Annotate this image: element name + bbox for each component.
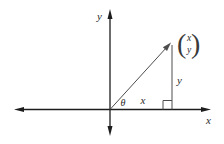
y-component-label: y bbox=[176, 74, 182, 86]
vector-line bbox=[110, 48, 167, 110]
y-axis-bottom-arrowhead bbox=[108, 126, 113, 136]
column-vector-left-paren: ( bbox=[177, 28, 186, 59]
vector-diagram-canvas: y x θ x y ( x y ) bbox=[0, 0, 224, 144]
column-vector-right-paren: ) bbox=[191, 28, 200, 59]
vector-diagram: y x θ x y ( x y ) bbox=[0, 0, 224, 144]
y-axis-top-arrowhead bbox=[108, 9, 113, 19]
x-axis-right-arrowhead bbox=[201, 107, 211, 112]
x-axis-left-arrowhead bbox=[14, 107, 24, 112]
column-vector: ( x y ) bbox=[177, 28, 200, 59]
y-axis-label: y bbox=[96, 10, 102, 22]
x-axis-label: x bbox=[205, 114, 211, 126]
right-angle-marker bbox=[163, 101, 172, 110]
x-component-label: x bbox=[140, 94, 146, 106]
angle-label: θ bbox=[121, 97, 126, 108]
